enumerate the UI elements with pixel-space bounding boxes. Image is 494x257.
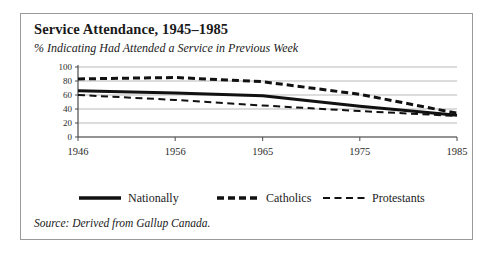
x-tick-labels: 19461956196519751985 [68,146,468,157]
y-axis [75,65,78,137]
x-tick-label: 1985 [447,146,468,157]
source-note: Source: Derived from Gallup Canada. [34,217,210,229]
data-series-group [78,78,457,117]
legend-swatch-nationally [79,192,121,204]
y-tick-labels: 020406080100 [59,62,73,142]
legend-swatch-protestants [323,192,365,204]
legend-item-protestants: Protestants [323,189,425,207]
x-tick-label: 1946 [68,146,89,157]
chart-subtitle: % Indicating Had Attended a Service in P… [34,41,298,56]
x-axis [78,137,457,141]
y-tick-label: 60 [63,90,73,100]
x-tick-label: 1956 [165,146,186,157]
y-tick-label: 20 [63,118,73,128]
legend-item-catholics: Catholics [217,189,311,207]
x-tick-label: 1965 [252,146,273,157]
figure-container: Service Attendance, 1945–1985 % Indicati… [20,13,473,240]
y-tick-label: 100 [59,62,73,72]
chart-title: Service Attendance, 1945–1985 [34,21,228,38]
plot-area: 020406080100 19461956196519751985 [21,59,473,174]
legend-label-protestants: Protestants [372,191,425,206]
x-tick-label: 1975 [349,146,370,157]
line-chart-svg: 020406080100 19461956196519751985 [21,59,473,174]
legend-swatch-catholics [217,192,259,204]
legend-label-catholics: Catholics [266,191,311,206]
y-tick-label: 40 [63,104,73,114]
legend-label-nationally: Nationally [128,191,179,206]
y-tick-label: 80 [63,76,73,86]
series-line-protestants [78,95,457,116]
legend-item-nationally: Nationally [79,189,179,207]
y-tick-label: 0 [68,132,73,142]
chart-legend: Nationally Catholics Protestants [57,189,457,209]
